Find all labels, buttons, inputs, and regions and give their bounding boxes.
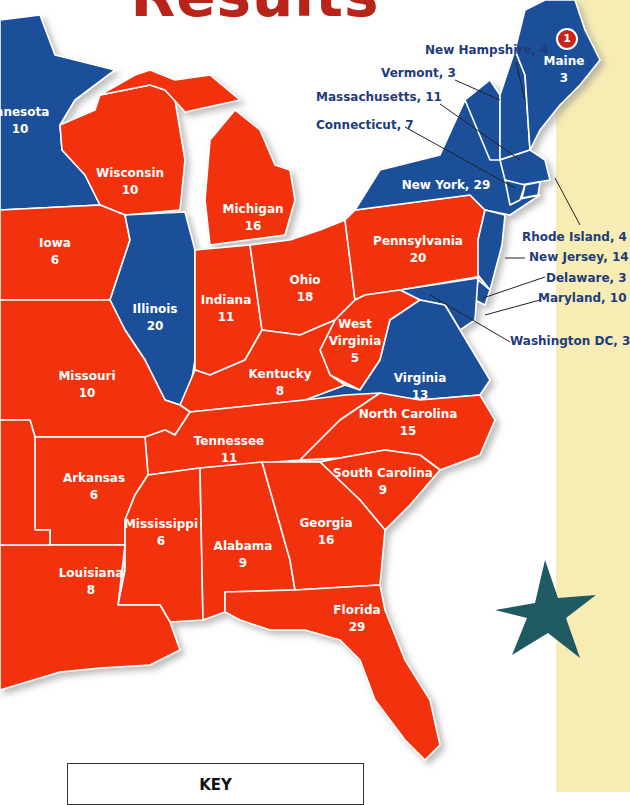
- label-virginia: Virginia13: [394, 370, 447, 404]
- label-alabama: Alabama9: [214, 538, 273, 572]
- callout-new-jersey: New Jersey, 14: [529, 250, 629, 264]
- callout-delaware: Delaware, 3: [546, 271, 627, 285]
- state-new-jersey[interactable]: [478, 210, 505, 290]
- star-icon: [495, 560, 596, 658]
- label-maine: Maine3: [544, 53, 585, 87]
- callout-vermont: Vermont, 3: [381, 66, 456, 80]
- callout-massachusetts: Massachusetts, 11: [316, 90, 442, 104]
- callout-washington-dc: Washington DC, 3: [510, 334, 630, 348]
- label-arkansas: Arkansas6: [63, 470, 125, 504]
- label-north-carolina: North Carolina15: [359, 406, 458, 440]
- callout-rhode-island: Rhode Island, 4: [522, 230, 627, 244]
- label-florida: Florida29: [333, 602, 380, 636]
- label-west-virginia: WestVirginia5: [329, 316, 382, 367]
- label-tennessee: Tennessee11: [194, 433, 265, 467]
- callout-maryland: Maryland, 10: [538, 291, 627, 305]
- callout-connecticut: Connecticut, 7: [316, 118, 414, 132]
- label-missouri: Missouri10: [58, 368, 115, 402]
- key-title: KEY: [68, 776, 363, 794]
- label-louisiana: Louisiana8: [59, 565, 124, 599]
- label-iowa: Iowa6: [39, 235, 71, 269]
- label-new-york: New York, 29: [402, 177, 491, 194]
- label-ohio: Ohio18: [289, 272, 320, 306]
- label-pennsylvania: Pennsylvania20: [373, 233, 463, 267]
- label-indiana: Indiana11: [201, 292, 251, 326]
- label-kentucky: Kentucky8: [249, 366, 312, 400]
- label-wisconsin: Wisconsin10: [96, 165, 164, 199]
- label-georgia: Georgia16: [300, 515, 353, 549]
- rank-badge: 1: [556, 28, 578, 50]
- label-minnesota: innesota10: [0, 104, 49, 138]
- state-rhode-island[interactable]: [522, 182, 540, 198]
- map-key: KEY: [67, 763, 364, 805]
- label-illinois: Illinois20: [133, 301, 178, 335]
- callout-new-hampshire: New Hampshire, 4: [425, 43, 549, 57]
- label-mississippi: Mississippi6: [124, 516, 198, 550]
- label-michigan: Michigan16: [222, 201, 283, 235]
- label-south-carolina: South Carolina9: [333, 465, 433, 499]
